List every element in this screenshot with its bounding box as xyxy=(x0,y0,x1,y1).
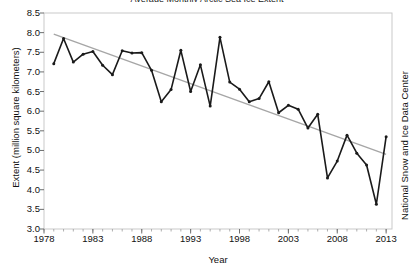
data-point xyxy=(160,100,163,103)
data-point xyxy=(258,97,261,100)
data-point xyxy=(228,81,231,84)
data-point xyxy=(365,163,368,166)
data-point xyxy=(385,135,388,138)
plot-area xyxy=(0,0,414,273)
data-point xyxy=(150,69,153,72)
trend-line xyxy=(54,34,386,154)
data-markers xyxy=(52,36,387,206)
data-point xyxy=(140,51,143,54)
data-point xyxy=(355,152,358,155)
data-point xyxy=(72,61,75,64)
data-point xyxy=(316,113,319,116)
data-point xyxy=(267,80,270,83)
data-point xyxy=(306,127,309,130)
data-point xyxy=(199,63,202,66)
data-point xyxy=(179,49,182,52)
data-point xyxy=(297,108,300,111)
data-point xyxy=(91,50,94,53)
data-point xyxy=(375,203,378,206)
chart-container: Average Monthly Arctic Sea Ice Extent Ex… xyxy=(0,0,414,273)
data-point xyxy=(346,134,349,137)
axis-frame xyxy=(44,13,392,229)
data-point xyxy=(101,64,104,67)
data-point xyxy=(209,105,212,108)
data-point xyxy=(170,88,173,91)
data-line xyxy=(54,37,386,204)
data-point xyxy=(82,53,85,56)
data-point xyxy=(326,176,329,179)
data-point xyxy=(277,111,280,114)
data-point xyxy=(218,36,221,39)
y-axis-ticks xyxy=(40,13,44,229)
data-point xyxy=(111,73,114,76)
data-point xyxy=(62,37,65,40)
data-point xyxy=(287,104,290,107)
data-point xyxy=(52,62,55,65)
data-point xyxy=(248,100,251,103)
data-point xyxy=(130,52,133,55)
data-point xyxy=(336,160,339,163)
data-point xyxy=(121,49,124,52)
data-point xyxy=(189,90,192,93)
x-axis-major-ticks xyxy=(44,229,386,234)
data-point xyxy=(238,88,241,91)
